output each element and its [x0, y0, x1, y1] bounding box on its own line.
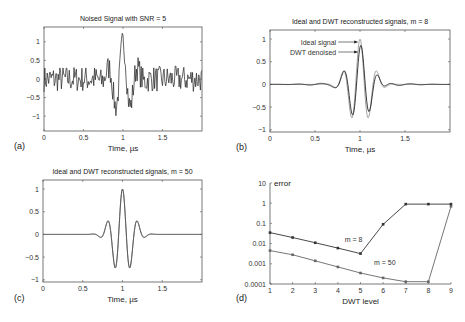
- series-line: [270, 206, 451, 281]
- data-point: [314, 241, 317, 244]
- y-tick-label: −0.5: [252, 104, 266, 111]
- chart-panel-c: 00.511.510.50−0.5−1Ideal and DWT reconst…: [14, 168, 202, 304]
- data-point: [427, 203, 430, 206]
- panel-label: (c): [14, 293, 25, 303]
- y-tick-label: 1: [262, 36, 266, 43]
- y-tick-label: 0: [262, 81, 266, 88]
- series-line: [43, 189, 202, 268]
- data-point: [269, 231, 272, 234]
- x-tick-label: 1: [121, 134, 125, 141]
- y-tick-label: 0.5: [256, 58, 266, 65]
- x-tick-label: 9: [449, 287, 453, 294]
- annotation-ideal-signal: Ideal signal: [301, 39, 337, 47]
- data-point: [291, 236, 294, 239]
- chart-title: Ideal and DWT reconstructed signals, m =…: [52, 168, 192, 176]
- plot-frame: [270, 30, 450, 132]
- y-tick-label: 0.5: [29, 208, 39, 215]
- data-point: [314, 260, 317, 263]
- y-tick-label: 10: [258, 180, 266, 187]
- x-tick-label: 8: [426, 287, 430, 294]
- y-tick-label: −1: [258, 126, 266, 133]
- x-tick-label: 7: [404, 287, 408, 294]
- panel-label: (a): [14, 141, 25, 151]
- data-point: [450, 205, 453, 208]
- y-tick-label: −1: [31, 276, 39, 283]
- data-point: [404, 203, 407, 206]
- x-tick-label: 6: [381, 287, 385, 294]
- series-line: [44, 33, 202, 115]
- y-tick-label: 0.001: [248, 260, 266, 267]
- y-tick-label: 1: [35, 186, 39, 193]
- data-point: [291, 253, 294, 256]
- y-tick-label: −0.5: [26, 94, 40, 101]
- x-tick-label: 5: [359, 287, 363, 294]
- y-tick-label: 1: [36, 38, 40, 45]
- data-point: [337, 247, 340, 250]
- chart-title: Noised Signal with SNR = 5: [80, 15, 166, 23]
- chart-panel-d: 1234567891010.10.010.0010.0001DWT levele…: [236, 179, 453, 306]
- series-line: [270, 45, 450, 114]
- x-axis-label: Time, µs: [107, 295, 138, 304]
- x-axis-label: Time, µs: [345, 145, 376, 154]
- x-axis-label: Time, µs: [108, 144, 139, 153]
- chart-title: Ideal and DWT reconstructed signals, m =…: [292, 18, 428, 26]
- x-tick-label: 1: [358, 135, 362, 142]
- series-label: m = 50: [374, 259, 396, 266]
- x-tick-label: 1.5: [157, 285, 167, 292]
- x-tick-label: 1: [268, 287, 272, 294]
- x-tick-label: 1.5: [158, 134, 168, 141]
- data-point: [404, 280, 407, 283]
- chart-panel-a: 00.511.510.50−0.5−1Noised Signal with SN…: [14, 15, 202, 153]
- series-line: [270, 204, 451, 253]
- arrow-head: [354, 40, 358, 43]
- data-point: [359, 252, 362, 255]
- series-label: m = 8: [345, 236, 363, 243]
- x-axis-label: DWT level: [342, 297, 379, 306]
- x-tick-label: 2: [291, 287, 295, 294]
- y-tick-label: −0.5: [25, 254, 39, 261]
- x-tick-label: 0: [42, 134, 46, 141]
- annotation-dwt-denoised: DWT denoised: [290, 49, 336, 56]
- x-tick-label: 4: [336, 287, 340, 294]
- y-tick-label: 0: [36, 76, 40, 83]
- y-tick-label: 0.0001: [245, 281, 267, 288]
- x-tick-label: 0.5: [310, 135, 320, 142]
- panel-label: (b): [236, 142, 247, 152]
- data-point: [427, 280, 430, 283]
- y-tick-label: 0.01: [252, 240, 266, 247]
- x-tick-label: 1: [121, 285, 125, 292]
- data-point: [382, 223, 385, 226]
- data-point: [359, 272, 362, 275]
- x-tick-label: 0: [268, 135, 272, 142]
- x-tick-label: 0.5: [78, 285, 88, 292]
- y-axis-label: error: [274, 179, 291, 188]
- y-tick-label: 0: [35, 231, 39, 238]
- data-point: [382, 277, 385, 280]
- y-tick-label: 0.5: [30, 57, 40, 64]
- data-point: [269, 249, 272, 252]
- data-point: [337, 266, 340, 269]
- y-tick-label: 1: [262, 200, 266, 207]
- figure: 00.511.510.50−0.5−1Noised Signal with SN…: [0, 0, 465, 322]
- x-tick-label: 1.5: [400, 135, 410, 142]
- chart-panel-b: 00.511.510.50−0.5−1Ideal and DWT reconst…: [236, 18, 450, 154]
- x-tick-label: 0.5: [79, 134, 89, 141]
- series-line: [43, 189, 202, 268]
- plot-frame: [43, 180, 202, 282]
- panel-label: (d): [236, 293, 247, 303]
- x-tick-label: 0: [41, 285, 45, 292]
- y-tick-label: −1: [32, 113, 40, 120]
- y-tick-label: 0.1: [256, 220, 266, 227]
- x-tick-label: 3: [313, 287, 317, 294]
